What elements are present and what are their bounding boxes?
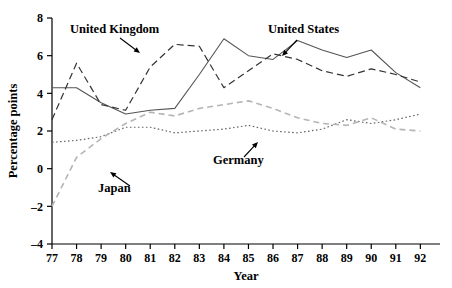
series-annotation-label: United Kingdom <box>70 22 160 36</box>
x-tick-label: 78 <box>71 251 83 265</box>
x-tick-label: 90 <box>365 251 377 265</box>
annotation-arrow-line <box>120 38 138 51</box>
annotation-arrow-head <box>110 172 116 178</box>
x-tick-label: 85 <box>242 251 254 265</box>
y-tick-label: –4 <box>30 237 43 251</box>
y-tick-label: 2 <box>37 124 43 138</box>
x-tick-label: 84 <box>218 251 230 265</box>
x-tick-label: 92 <box>414 251 426 265</box>
x-tick-label: 83 <box>193 251 205 265</box>
annotation-arrow-head <box>134 47 140 53</box>
series-line-united-states <box>52 39 420 114</box>
y-tick-label: 6 <box>37 49 43 63</box>
x-tick-label: 86 <box>267 251 279 265</box>
line-chart-canvas: –4–2024687778798081828384858687888990919… <box>0 0 452 288</box>
y-tick-label: 8 <box>37 11 43 25</box>
series-line-germany <box>52 114 420 142</box>
series-line-united-kingdom <box>52 44 420 119</box>
y-tick-label: 0 <box>37 162 43 176</box>
series-annotation-label: Germany <box>213 153 264 167</box>
x-tick-label: 81 <box>144 251 156 265</box>
y-tick-label: 4 <box>37 87 43 101</box>
x-tick-label: 89 <box>341 251 353 265</box>
x-tick-label: 87 <box>292 251 304 265</box>
y-axis-title: Percentage points <box>6 84 20 179</box>
x-tick-label: 80 <box>120 251 132 265</box>
series-annotation-label: United States <box>268 22 339 36</box>
x-axis-title: Year <box>234 269 259 283</box>
x-tick-label: 82 <box>169 251 181 265</box>
chart-figure: –4–2024687778798081828384858687888990919… <box>0 0 452 288</box>
x-tick-label: 88 <box>316 251 328 265</box>
x-tick-label: 77 <box>46 251 58 265</box>
x-tick-label: 79 <box>95 251 107 265</box>
y-tick-label: –2 <box>30 200 43 214</box>
x-tick-label: 91 <box>390 251 402 265</box>
